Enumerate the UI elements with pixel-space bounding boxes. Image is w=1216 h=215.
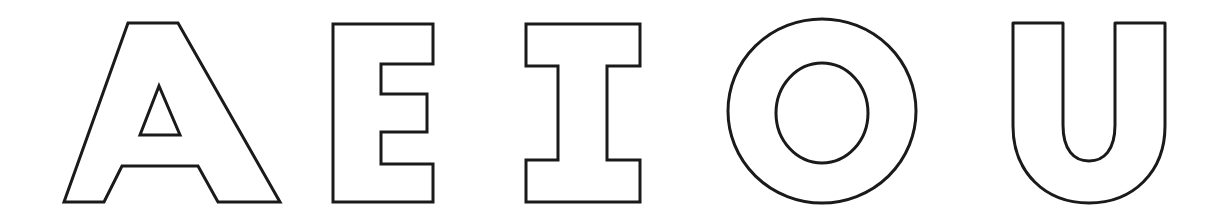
letter-o-glyph (728, 19, 916, 203)
letters-canvas (0, 0, 1216, 215)
letter-u-outline (1013, 23, 1165, 203)
letter-i-glyph (526, 24, 640, 202)
letter-e-glyph (333, 24, 433, 202)
letter-a-glyph (64, 23, 280, 202)
vowel-outline-worksheet: A E I O U (0, 0, 1216, 215)
letter-u-glyph (1013, 23, 1165, 203)
letter-e-outline (333, 24, 433, 202)
letter-a-outline (64, 23, 280, 202)
letter-o-inner-counter (776, 63, 868, 163)
letter-i-outline (526, 24, 640, 202)
